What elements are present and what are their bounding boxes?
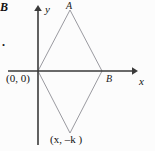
margin-letter: B bbox=[0, 1, 8, 13]
y-axis-label: y bbox=[45, 4, 50, 15]
vertex-label-origin: (0, 0) bbox=[6, 73, 30, 84]
y-axis-arrowhead bbox=[34, 5, 42, 11]
margin-dot: . bbox=[2, 36, 5, 48]
vertex-label-b: B bbox=[106, 74, 112, 84]
x-axis-arrowhead bbox=[132, 67, 138, 75]
rhombus-coordinate-figure: y x A B (0, 0) (x, –k ) B . bbox=[0, 0, 155, 151]
vertex-label-bottom: (x, –k ) bbox=[50, 134, 82, 145]
vertex-label-a: A bbox=[66, 1, 72, 11]
x-axis-label: x bbox=[139, 76, 144, 87]
